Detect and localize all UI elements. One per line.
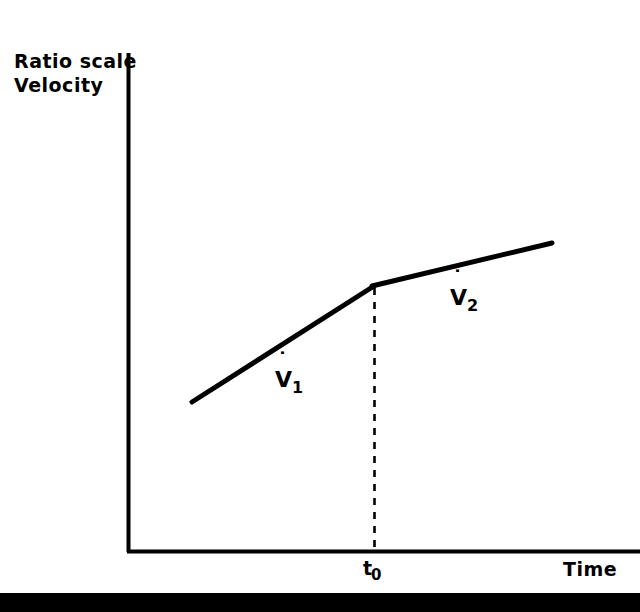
v1-label-overdot: ˙	[277, 348, 288, 373]
velocity-time-chart: Ratio scale Velocity V ˙ 1 V ˙ 2 t 0	[0, 0, 640, 612]
v1-label-subscript: 1	[292, 378, 303, 397]
chart-figure: Ratio scale Velocity V ˙ 1 V ˙ 2 t 0	[0, 0, 640, 612]
y-axis-label-line2: Velocity	[14, 74, 103, 96]
x-tick-t0-subscript: 0	[371, 566, 381, 584]
v2-label-subscript: 2	[467, 296, 478, 315]
x-axis-label: Time	[563, 558, 617, 580]
y-axis-label-line1: Ratio scale	[14, 50, 137, 72]
footer-bar	[0, 593, 640, 612]
v2-label-overdot: ˙	[452, 266, 463, 291]
